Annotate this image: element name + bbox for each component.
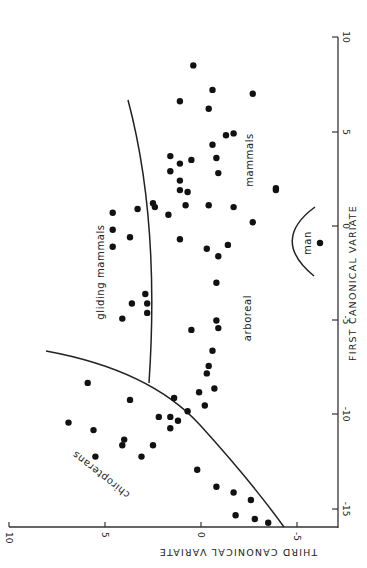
- data-point: [252, 516, 258, 522]
- data-point: [177, 160, 183, 166]
- data-point: [150, 200, 156, 206]
- data-point: [177, 177, 183, 183]
- data-point: [177, 187, 183, 193]
- y-tick-label: 0: [196, 532, 206, 538]
- data-point: [223, 132, 229, 138]
- gliding-arboreal-boundary: [128, 100, 152, 383]
- data-point: [127, 397, 133, 403]
- chiropterans-label: chiropterans: [70, 449, 132, 501]
- data-point: [206, 106, 212, 112]
- data-point: [167, 425, 173, 431]
- data-point: [167, 168, 173, 174]
- data-point: [85, 380, 91, 386]
- data-point: [177, 98, 183, 104]
- x-tick-label: -10: [341, 407, 351, 422]
- data-point: [144, 310, 150, 316]
- data-point: [110, 244, 116, 250]
- data-point: [188, 157, 194, 163]
- data-point: [190, 62, 196, 68]
- data-point: [150, 442, 156, 448]
- data-point: [184, 189, 190, 195]
- data-point: [250, 219, 256, 225]
- data-point: [213, 484, 219, 490]
- x-axis-title: FIRST CANONICAL VARIATE: [347, 205, 358, 361]
- data-point: [248, 497, 254, 503]
- data-point: [206, 363, 212, 369]
- data-point: [215, 170, 221, 176]
- data-point: [225, 242, 231, 248]
- data-point: [119, 442, 125, 448]
- arboreal-label: arboreal: [242, 295, 253, 341]
- data-point: [129, 300, 135, 306]
- data-point: [127, 234, 133, 240]
- data-point: [110, 210, 116, 216]
- data-point: [204, 370, 210, 376]
- y-tick-label: 5: [100, 532, 110, 538]
- y-tick-label: -5: [292, 532, 302, 541]
- y-tick-label: 10: [4, 532, 14, 544]
- data-point: [121, 436, 127, 442]
- gliding-mammals-label: gliding mammals: [95, 224, 106, 319]
- data-point: [110, 227, 116, 233]
- data-point: [230, 204, 236, 210]
- x-tick-label: 10: [341, 31, 351, 43]
- data-point: [182, 202, 188, 208]
- data-point: [90, 427, 96, 433]
- data-point: [215, 325, 221, 331]
- data-point: [171, 395, 177, 401]
- man-label: man: [302, 231, 313, 255]
- data-point: [92, 453, 98, 459]
- x-axis: 10 5 0 -5 -10 -15 FIRST CANONICAL VARIAT…: [332, 31, 358, 528]
- data-point: [177, 236, 183, 242]
- data-point: [142, 291, 148, 297]
- data-point: [213, 155, 219, 161]
- data-point: [65, 419, 71, 425]
- data-point: [196, 389, 202, 395]
- data-point: [209, 142, 215, 148]
- data-point: [206, 202, 212, 208]
- y-axis: 10 5 0 -5 THIRD CANONICAL VARIATE: [4, 522, 338, 558]
- x-tick-label: 5: [341, 129, 351, 135]
- data-point: [232, 512, 238, 518]
- data-point: [188, 327, 194, 333]
- y-axis-title: THIRD CANONICAL VARIATE: [159, 547, 319, 558]
- data-point: [265, 520, 271, 526]
- data-point: [213, 280, 219, 286]
- data-point: [230, 130, 236, 136]
- data-point: [250, 91, 256, 97]
- scatter-chart: 10 5 0 -5 -10 -15 FIRST CANONICAL VARIAT…: [0, 0, 367, 568]
- data-point: [138, 453, 144, 459]
- data-point: [167, 414, 173, 420]
- data-point: [194, 467, 200, 473]
- data-point: [211, 385, 217, 391]
- data-point: [165, 212, 171, 218]
- man-data-point: [317, 240, 323, 246]
- data-point: [202, 402, 208, 408]
- data-point: [213, 317, 219, 323]
- data-point: [134, 206, 140, 212]
- data-point: [144, 300, 150, 306]
- data-point: [209, 348, 215, 354]
- data-point: [204, 246, 210, 252]
- data-point: [119, 315, 125, 321]
- data-point: [230, 489, 236, 495]
- data-point: [156, 414, 162, 420]
- mammals-label: mammals: [244, 133, 255, 187]
- data-point: [273, 187, 279, 193]
- data-point: [215, 253, 221, 259]
- data-point: [184, 408, 190, 414]
- data-point: [167, 153, 173, 159]
- data-point: [209, 87, 215, 93]
- data-point: [175, 418, 181, 424]
- x-tick-label: -15: [341, 502, 351, 517]
